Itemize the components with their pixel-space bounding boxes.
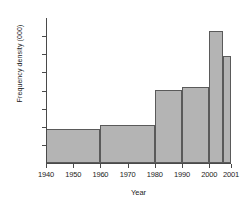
x-axis-tick-label: 2001: [219, 170, 243, 179]
x-axis-title: Year: [46, 188, 231, 197]
y-axis-tick: [42, 145, 46, 146]
bar: [46, 129, 100, 163]
x-axis-tick-label: 1980: [143, 170, 167, 179]
x-axis-tick: [100, 164, 101, 168]
x-axis-tick-label: 1960: [88, 170, 112, 179]
y-axis-tick: [42, 36, 46, 37]
y-axis-line: [46, 18, 47, 164]
x-axis-tick-label: 1990: [170, 170, 194, 179]
x-axis-tick: [209, 164, 210, 168]
bar: [182, 87, 209, 163]
y-axis-tick: [42, 72, 46, 73]
bar: [155, 90, 182, 163]
x-axis-tick-label: 1950: [61, 170, 85, 179]
x-axis-tick: [128, 164, 129, 168]
x-axis-tick: [155, 164, 156, 168]
x-axis-tick: [182, 164, 183, 168]
x-axis-tick: [46, 164, 47, 168]
y-axis-tick: [42, 91, 46, 92]
plot-area: 19401950196019701980199020002001: [0, 0, 250, 211]
y-axis-tick: [42, 54, 46, 55]
y-axis-title: Frequency density (000): [16, 9, 23, 119]
bar: [209, 31, 223, 163]
histogram-figure: 19401950196019701980199020002001 Frequen…: [0, 0, 250, 211]
bar: [100, 125, 154, 163]
bar: [223, 56, 231, 163]
y-axis-tick: [42, 109, 46, 110]
y-axis-tick: [42, 127, 46, 128]
x-axis-tick: [231, 164, 232, 168]
x-axis-tick-label: 1970: [116, 170, 140, 179]
x-axis-tick-label: 2000: [197, 170, 221, 179]
x-axis-tick: [73, 164, 74, 168]
x-axis-tick-label: 1940: [34, 170, 58, 179]
